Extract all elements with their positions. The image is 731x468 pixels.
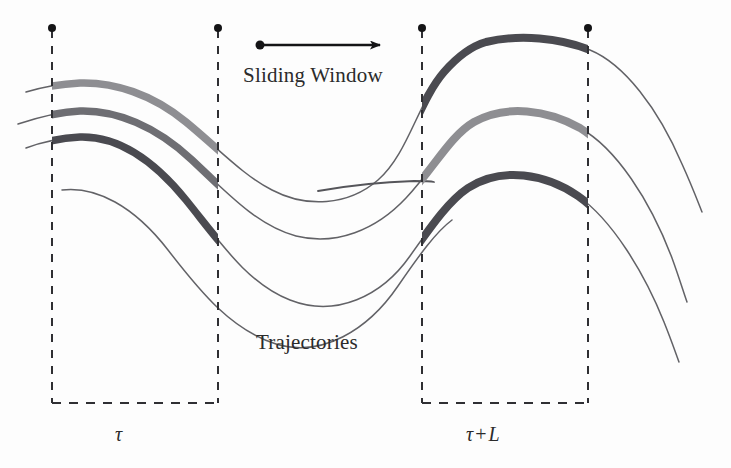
- dot-tau-plus-l-start: [418, 24, 426, 32]
- figure-root: Sliding Window Trajectories τ τ+L: [0, 0, 731, 468]
- dot-tau-start: [48, 24, 56, 32]
- thick-right-middle: [406, 111, 616, 198]
- thin-curve-extra-lower: [62, 190, 452, 348]
- thick-segments-left-window: [18, 83, 296, 300]
- plus-symbol: +: [473, 423, 488, 445]
- tau-symbol: τ: [115, 423, 122, 445]
- window-label-tau-plus-l: τ+L: [466, 423, 500, 446]
- sliding-window-label: Sliding Window: [243, 63, 383, 88]
- sliding-window-arrow: [256, 41, 381, 50]
- thick-right-bottom: [410, 175, 614, 256]
- trajectories-label: Trajectories: [256, 330, 358, 355]
- dot-tau-plus-l-end: [584, 24, 592, 32]
- window-label-tau: τ: [115, 423, 122, 446]
- window-boundary-dots: [48, 24, 592, 32]
- dot-tau-end: [214, 24, 222, 32]
- thin-curve-bottom: [26, 137, 679, 362]
- l-symbol: L: [488, 423, 499, 445]
